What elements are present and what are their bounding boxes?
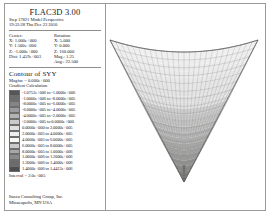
view-row-ang: Ang.: 22.500 xyxy=(9,59,101,64)
legend-panel: FLAC3D 3.00 Step 17821 Model Perspective… xyxy=(5,4,106,210)
dist-value: 1.459e+003 xyxy=(19,54,41,59)
rotation-x-value: 5.000 xyxy=(60,38,70,43)
contour-title: Contour of SYY xyxy=(9,70,101,79)
mag-value: 1.25 xyxy=(66,54,74,59)
legend-color-swatch xyxy=(9,166,20,172)
divider-top xyxy=(9,30,101,31)
view-parameters-block: Center: Rotation: X: 1.000e+000 X: 5.000… xyxy=(5,32,105,66)
title-block: FLAC3D 3.00 Step 17821 Model Perspective… xyxy=(5,4,105,29)
mesh-3d-graphic xyxy=(106,4,265,210)
footer-location: Minneapolis, MN USA xyxy=(9,200,63,205)
contour-legend-list: -1.0752e+006 to -1.0000e+006-1.0000e+006… xyxy=(9,90,101,172)
center-y-value: 1.500e+000 xyxy=(14,43,36,48)
timestamp-line: 19:32:28 Thu Dec 23 2010 xyxy=(9,22,101,27)
ang-label: Ang.: xyxy=(54,59,64,64)
interval-line: Interval = 2.0e+005 xyxy=(9,172,101,179)
footer-block: Itasca Consulting Group, Inc. Minneapoli… xyxy=(9,194,63,205)
contour-block: Contour of SYY Magfac = 0.000e+000 Gradi… xyxy=(5,69,105,179)
center-z-value: -1.000e+000 xyxy=(14,49,37,54)
mesh-wireframe xyxy=(110,40,258,182)
ang-field: Ang.: 22.500 xyxy=(54,59,100,64)
application-title: FLAC3D 3.00 xyxy=(9,7,101,17)
footer-company: Itasca Consulting Group, Inc. xyxy=(9,194,63,199)
gradient-calculation-line: Gradient Calculation xyxy=(9,83,101,88)
ang-spacer xyxy=(9,59,54,64)
divider-contour xyxy=(9,67,101,68)
rotation-z-value: 160.000 xyxy=(59,49,74,54)
mesh-plot-area[interactable] xyxy=(106,4,265,210)
flac3d-plot-window: FLAC3D 3.00 Step 17821 Model Perspective… xyxy=(4,3,266,211)
ang-value: 22.500 xyxy=(66,59,79,64)
legend-range-label: 1.4000e+006 to 1.4413e+006 xyxy=(20,166,72,172)
rotation-y-value: 0.000 xyxy=(59,43,69,48)
center-x-value: 1.000e+000 xyxy=(15,38,37,43)
